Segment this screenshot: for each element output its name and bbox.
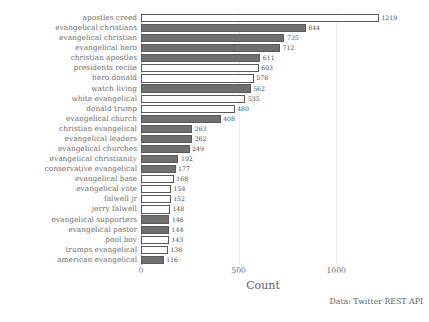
bar-value-label: 480 — [237, 104, 249, 114]
bar-track: 263 — [141, 124, 429, 134]
bar[interactable] — [141, 74, 254, 82]
bar-value-label: 192 — [181, 154, 193, 164]
bar[interactable] — [141, 44, 280, 52]
bar-track: 144 — [141, 225, 429, 235]
x-axis-ticks: 05001000 — [141, 266, 385, 280]
bar-row: falwell jr152 — [0, 194, 429, 204]
bar-value-label: 168 — [176, 174, 188, 184]
bar-value-label: 712 — [282, 43, 294, 53]
bar[interactable] — [141, 155, 178, 163]
bar[interactable] — [141, 175, 174, 183]
bar-track: 408 — [141, 114, 429, 124]
category-label: evangelical christianity — [0, 154, 137, 164]
bar-track: 168 — [141, 174, 429, 184]
bar-value-label: 177 — [178, 164, 190, 174]
category-label: evangelical hero — [0, 43, 137, 53]
category-label: evangelical vote — [0, 184, 137, 194]
bar-row: white evangelical535 — [0, 94, 429, 104]
bar-value-label: 146 — [172, 215, 184, 225]
bar-track: 192 — [141, 154, 429, 164]
category-label: donald trump — [0, 104, 137, 114]
bar-value-label: 138 — [170, 245, 182, 255]
bar-track: 562 — [141, 84, 429, 94]
bar-track: 146 — [141, 215, 429, 225]
bar-value-label: 263 — [195, 124, 207, 134]
bar[interactable] — [141, 256, 164, 264]
bar-row: american evangelical116 — [0, 255, 429, 265]
x-tick-label: 500 — [231, 266, 246, 275]
bar-value-label: 154 — [174, 184, 186, 194]
bar[interactable] — [141, 125, 192, 133]
bar-row: evangelical christianity192 — [0, 154, 429, 164]
category-label: conservative evangelical — [0, 164, 137, 174]
bar[interactable] — [141, 246, 168, 254]
bar-row: evangelical church408 — [0, 114, 429, 124]
bar-track: 138 — [141, 245, 429, 255]
bar[interactable] — [141, 215, 169, 223]
bar[interactable] — [141, 195, 171, 203]
bar[interactable] — [141, 145, 190, 153]
bar[interactable] — [141, 165, 176, 173]
bar-track: 249 — [141, 144, 429, 154]
bar-track: 712 — [141, 43, 429, 53]
bar-value-label: 144 — [172, 225, 184, 235]
bar-track: 603 — [141, 63, 429, 73]
category-label: white evangelical — [0, 94, 137, 104]
bar-row: evangelical vote154 — [0, 184, 429, 194]
bar-row: evangelical leaders262 — [0, 134, 429, 144]
bar-value-label: 603 — [261, 63, 273, 73]
bar-row: christian apostles611 — [0, 53, 429, 63]
bar[interactable] — [141, 24, 306, 32]
bar[interactable] — [141, 115, 221, 123]
bar[interactable] — [141, 64, 259, 72]
bar-value-label: 116 — [166, 255, 178, 265]
category-label: presidents recite — [0, 63, 137, 73]
category-label: evangelical pastor — [0, 225, 137, 235]
bar-track: 535 — [141, 94, 429, 104]
bar-track: 143 — [141, 235, 429, 245]
category-label: jerry falwell — [0, 204, 137, 214]
category-label: evangelical christians — [0, 23, 137, 33]
bar[interactable] — [141, 205, 170, 213]
bar-track: 262 — [141, 134, 429, 144]
bar[interactable] — [141, 14, 379, 22]
bar-value-label: 408 — [223, 114, 235, 124]
bar[interactable] — [141, 54, 260, 62]
bar-rows: apostles creed1219evangelical christians… — [0, 13, 429, 265]
bar[interactable] — [141, 95, 245, 103]
bar[interactable] — [141, 84, 251, 92]
category-label: watch living — [0, 84, 137, 94]
bar-row: trumps evangelical138 — [0, 245, 429, 255]
category-label: christian apostles — [0, 53, 137, 63]
bar-row: pool boy143 — [0, 235, 429, 245]
bar[interactable] — [141, 185, 171, 193]
bar-value-label: 152 — [173, 194, 185, 204]
x-tick-label: 0 — [139, 266, 144, 275]
bar-track: 578 — [141, 73, 429, 83]
bar-track: 152 — [141, 194, 429, 204]
bar-value-label: 735 — [287, 33, 299, 43]
bar-row: evangelical base168 — [0, 174, 429, 184]
category-label: american evangelical — [0, 255, 137, 265]
bar-row: jerry falwell148 — [0, 204, 429, 214]
category-label: evangelical base — [0, 174, 137, 184]
x-axis-label: Count — [141, 279, 385, 292]
bar-value-label: 1219 — [381, 13, 397, 23]
bar[interactable] — [141, 135, 192, 143]
bar-row: evangelical churches249 — [0, 144, 429, 154]
bar[interactable] — [141, 105, 235, 113]
plot-area: apostles creed1219evangelical christians… — [0, 0, 429, 322]
bar-row: donald trump480 — [0, 104, 429, 114]
bar[interactable] — [141, 34, 284, 42]
bar-row: presidents recite603 — [0, 63, 429, 73]
bar-track: 154 — [141, 184, 429, 194]
bar-row: evangelical hero712 — [0, 43, 429, 53]
bar-track: 148 — [141, 204, 429, 214]
bar[interactable] — [141, 226, 169, 234]
bar-track: 177 — [141, 164, 429, 174]
category-label: evangelical church — [0, 114, 137, 124]
bar-track: 480 — [141, 104, 429, 114]
bar[interactable] — [141, 236, 169, 244]
x-tick-label: 1000 — [327, 266, 346, 275]
bar-chart: apostles creed1219evangelical christians… — [0, 0, 429, 322]
